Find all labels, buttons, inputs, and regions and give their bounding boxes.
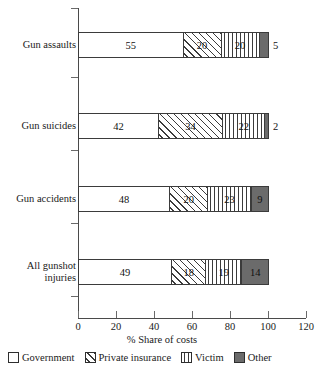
bar-segment-gun-accidents-other: 9	[251, 186, 269, 212]
bar-value-label-outside: 5	[270, 32, 278, 58]
category-label-line: All gunshot	[0, 260, 76, 272]
swatch-victim-icon	[181, 352, 192, 363]
bar-segment-gun-suicides-private-insurance: 34	[158, 113, 224, 139]
swatch-other-icon	[234, 352, 245, 363]
bar-segment-gun-suicides-victim: 22	[222, 113, 265, 139]
chart-legend: GovernmentPrivate insuranceVictimOther	[8, 352, 320, 363]
bar-value-label: 19	[219, 267, 230, 278]
category-label-gun-suicides: Gun suicides	[0, 120, 76, 132]
bar-value-label: 55	[126, 40, 137, 51]
y-tick	[71, 223, 78, 224]
x-tick	[306, 311, 307, 318]
bar-segment-gun-assaults-other	[259, 32, 270, 58]
x-tick	[116, 311, 117, 318]
bar-value-label: 23	[224, 194, 235, 205]
x-tick	[192, 311, 193, 318]
bar-value-label: 22	[239, 121, 250, 132]
swatch-government-icon	[8, 352, 19, 363]
legend-item-victim[interactable]: Victim	[181, 352, 224, 363]
legend-label: Victim	[195, 352, 224, 363]
legend-label: Government	[22, 352, 75, 363]
bar-value-label: 20	[197, 40, 208, 51]
x-tick-label: 100	[248, 321, 288, 333]
x-tick	[154, 311, 155, 318]
x-tick	[78, 311, 79, 318]
category-label-all-gunshot: All gunshotinjuries	[0, 260, 76, 283]
x-tick	[268, 311, 269, 318]
y-tick	[71, 296, 78, 297]
legend-label: Other	[248, 352, 272, 363]
legend-item-private-insurance[interactable]: Private insurance	[85, 352, 172, 363]
y-tick	[71, 8, 78, 9]
bar-segment-gun-accidents-victim: 23	[207, 186, 252, 212]
bar-segment-gun-assaults-private-insurance: 20	[183, 32, 222, 58]
bar-segment-gun-accidents-government: 48	[78, 186, 170, 212]
bar-row-gun-suicides: 4234222	[78, 113, 306, 139]
bar-value-label: 34	[185, 121, 196, 132]
bar-row-gun-accidents: 4820239	[78, 186, 306, 212]
bar-value-label: 48	[119, 194, 130, 205]
bar-segment-gun-suicides-government: 42	[78, 113, 159, 139]
x-axis-title: % Share of costs	[0, 334, 324, 345]
bar-row-all-gunshot-injuries: 49181914	[78, 259, 306, 285]
bar-value-label: 18	[183, 267, 194, 278]
stacked-bar-chart: 020406080100120 Gun assaultsGun suicides…	[0, 0, 324, 382]
bar-segment-gun-assaults-government: 55	[78, 32, 184, 58]
bar-value-label: 20	[235, 40, 246, 51]
bar-segment-all-gunshot-injuries-private-insurance: 18	[171, 259, 206, 285]
y-tick	[71, 150, 78, 151]
bar-segment-gun-accidents-private-insurance: 20	[169, 186, 208, 212]
bar-value-label: 49	[120, 267, 131, 278]
category-label-line: Gun accidents	[0, 193, 76, 205]
x-tick-label: 80	[210, 321, 250, 333]
bar-value-label: 42	[113, 121, 124, 132]
category-label-line: Gun suicides	[0, 120, 76, 132]
bar-value-label: 9	[257, 194, 262, 205]
category-label-gun-accidents: Gun accidents	[0, 193, 76, 205]
x-tick-label: 60	[172, 321, 212, 333]
bar-segment-gun-assaults-victim: 20	[221, 32, 260, 58]
bar-value-label: 14	[250, 267, 261, 278]
category-label-gun-assaults: Gun assaults	[0, 39, 76, 51]
bar-value-label-outside: 2	[270, 113, 278, 139]
swatch-private-insurance-icon	[85, 352, 96, 363]
bar-segment-all-gunshot-injuries-other: 14	[241, 259, 269, 285]
legend-label: Private insurance	[99, 352, 172, 363]
x-tick-label: 120	[286, 321, 324, 333]
x-axis-line	[78, 318, 306, 319]
x-tick-label: 20	[96, 321, 136, 333]
legend-item-government[interactable]: Government	[8, 352, 75, 363]
bar-segment-gun-suicides-other	[264, 113, 269, 139]
y-tick	[71, 77, 78, 78]
bar-segment-all-gunshot-injuries-government: 49	[78, 259, 172, 285]
bar-value-label: 20	[183, 194, 194, 205]
x-tick-label: 40	[134, 321, 174, 333]
x-tick	[230, 311, 231, 318]
legend-item-other[interactable]: Other	[234, 352, 272, 363]
category-label-line: Gun assaults	[0, 39, 76, 51]
x-tick-label: 0	[58, 321, 98, 333]
bar-segment-all-gunshot-injuries-victim: 19	[205, 259, 242, 285]
category-label-line: injuries	[0, 272, 76, 284]
bar-row-gun-assaults: 5520205	[78, 32, 306, 58]
